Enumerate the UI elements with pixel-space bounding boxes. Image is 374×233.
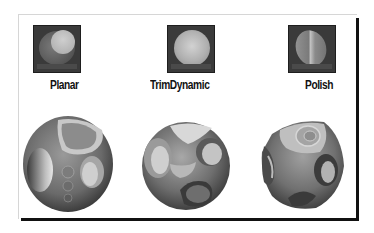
planar-brush-thumbnail[interactable] [33,25,81,73]
polish-brush-thumbnail[interactable] [288,25,336,73]
sphere-preview-icon [174,30,210,66]
trimdynamic-label: TrimDynamic [150,78,209,92]
polish-label: Polish [305,78,333,92]
trimdynamic-brush-thumbnail[interactable] [167,25,215,73]
planar-label: Planar [50,78,79,92]
frame-shadow-right [356,18,359,221]
frame-shadow-bottom [21,218,359,221]
trimdynamic-sculpted-sphere [140,120,232,212]
flat-plane-highlight [51,30,75,54]
polish-sculpted-sphere [258,116,346,212]
thumbnail-caption-strip [171,64,211,69]
thumbnail-caption-strip [37,64,77,69]
thumbnail-caption-strip [292,64,332,69]
planar-sculpted-sphere [22,114,114,214]
